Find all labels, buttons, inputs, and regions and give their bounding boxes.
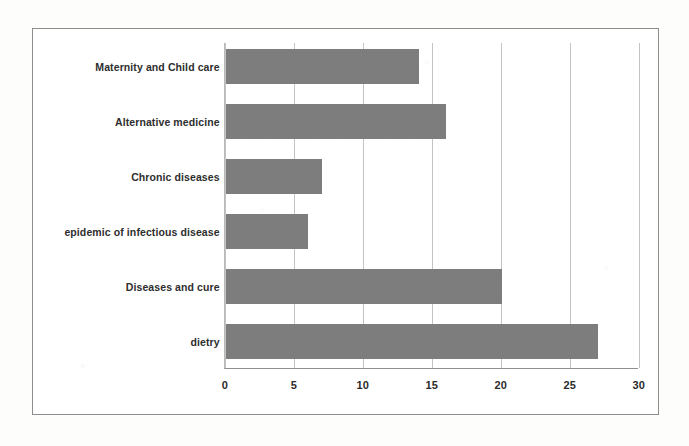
category-label-3: epidemic of infectious disease bbox=[64, 226, 219, 238]
gridline-0 bbox=[225, 43, 226, 368]
category-label-2: Chronic diseases bbox=[131, 171, 220, 183]
bar-dietry[interactable]: dietry bbox=[226, 324, 599, 359]
bar-chronic-diseases[interactable]: Chronic diseases bbox=[226, 159, 323, 194]
category-label-5: dietry bbox=[190, 336, 219, 348]
bar-epidemic-of-infectious-disease[interactable]: epidemic of infectious disease bbox=[226, 214, 309, 249]
gridline-30 bbox=[639, 43, 640, 368]
gridline-15 bbox=[432, 43, 433, 368]
category-label-1: Alternative medicine bbox=[115, 116, 220, 128]
xtick-label-20: 20 bbox=[495, 379, 507, 391]
gridline-20 bbox=[501, 43, 502, 368]
gridline-5 bbox=[294, 43, 295, 368]
xtick-label-5: 5 bbox=[291, 379, 297, 391]
category-label-4: Diseases and cure bbox=[126, 281, 220, 293]
xtick-label-10: 10 bbox=[357, 379, 369, 391]
category-label-0: Maternity and Child care bbox=[95, 61, 219, 73]
xtick-label-30: 30 bbox=[633, 379, 645, 391]
xtick-label-25: 25 bbox=[564, 379, 576, 391]
xtick-label-0: 0 bbox=[222, 379, 228, 391]
gridline-10 bbox=[363, 43, 364, 368]
bar-diseases-and-cure[interactable]: Diseases and cure bbox=[226, 269, 502, 304]
bar-maternity-and-child-care[interactable]: Maternity and Child care bbox=[226, 49, 419, 84]
bar-alternative-medicine[interactable]: Alternative medicine bbox=[226, 104, 447, 139]
gridline-25 bbox=[570, 43, 571, 368]
chart-frame: Maternity and Child care Alternative med… bbox=[32, 28, 659, 415]
xtick-label-15: 15 bbox=[426, 379, 438, 391]
plot-area: Maternity and Child care Alternative med… bbox=[224, 43, 638, 369]
